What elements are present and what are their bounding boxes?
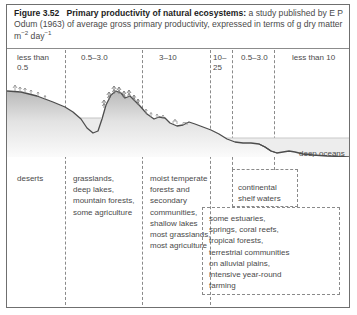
figure-caption: Figure 3.52 Primary productivity of natu… <box>14 8 344 42</box>
terrain-cross-section: deep oceans <box>7 81 349 157</box>
range-label-5: less than 10 <box>292 53 335 63</box>
caption-divider-rule <box>7 48 349 49</box>
figure-panel: Figure 3.52 Primary productivity of natu… <box>6 4 350 308</box>
figure-label: Figure 3.52 <box>14 8 59 18</box>
range-label-4: 0.5–3.0 <box>241 53 268 63</box>
unit-day: day <box>28 31 44 41</box>
description-grasslands: grasslands, deep lakes, mountain forests… <box>73 173 141 218</box>
range-label-2: 3–10 <box>159 53 177 63</box>
terrain-svg <box>7 81 349 157</box>
description-estuaries: some estuaries, springs, coral reefs, tr… <box>209 213 339 291</box>
range-label-row: less than0.5 0.5–3.0 3–10 10–25 0.5–3.0 … <box>7 50 349 80</box>
range-label-1: 0.5–3.0 <box>81 53 108 63</box>
deep-ocean-label: deep oceans <box>299 149 345 157</box>
figure-title: Primary productivity of natural ecosyste… <box>67 8 247 18</box>
range-label-3: 10–25 <box>213 53 226 73</box>
description-deserts: deserts <box>17 173 63 184</box>
description-continental-shelf: continental shelf waters <box>238 182 281 204</box>
range-label-0: less than0.5 <box>17 53 49 73</box>
unit-exponent-day: −1 <box>44 29 51 36</box>
